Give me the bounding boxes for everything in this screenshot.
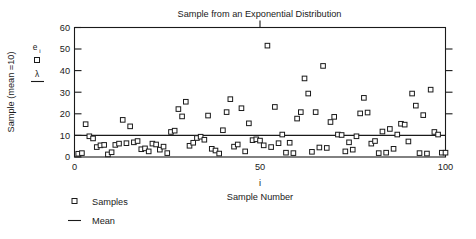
scatter-point [350, 147, 355, 152]
x-axis-symbol: i [259, 178, 261, 188]
x-tick-label: 100 [438, 162, 453, 172]
x-axis-label: Sample Number [227, 192, 293, 202]
x-tick-label: 50 [255, 162, 265, 172]
scatter-point [191, 140, 196, 145]
scatter-point [165, 151, 170, 156]
scatter-point [83, 122, 88, 127]
scatter-point [258, 138, 263, 143]
scatter-point [421, 113, 426, 118]
scatter-point [343, 149, 348, 154]
scatter-point [124, 141, 129, 146]
scatter-point [332, 115, 337, 120]
scatter-point [109, 150, 114, 155]
scatter-point [154, 142, 159, 147]
scatter-point [239, 106, 244, 111]
scatter-point [261, 143, 266, 148]
scatter-point [269, 145, 274, 150]
legend-square-marker-icon [72, 199, 77, 204]
scatter-point [284, 150, 289, 155]
scatter-point [184, 99, 189, 104]
scatter-point [310, 150, 315, 155]
scatter-point [135, 139, 140, 144]
scatter-point [217, 151, 222, 156]
legend-label-samples: Samples [92, 197, 128, 207]
scatter-point [273, 105, 278, 110]
scatter-point [317, 145, 322, 150]
scatter-point [380, 129, 385, 134]
scatter-point [388, 127, 393, 132]
annotation-e-sub-i: e i [33, 42, 41, 63]
y-tick-label: 30 [60, 88, 70, 98]
scatter-point [328, 120, 333, 125]
scatter-point [376, 151, 381, 156]
scatter-point [206, 113, 211, 118]
scatter-point [265, 43, 270, 48]
scatter-point [299, 110, 304, 115]
scatter-point [247, 121, 252, 126]
scatter-point [243, 149, 248, 154]
scatter-point [180, 114, 185, 119]
scatter-point [365, 110, 370, 115]
annotation-symbol-e: e [33, 42, 38, 52]
scatter-point [161, 144, 166, 149]
scatter-point [354, 134, 359, 139]
annotation-lambda: λ [31, 69, 44, 82]
y-tick-label: 60 [60, 23, 70, 33]
scatter-point [436, 132, 441, 137]
scatter-point [276, 141, 281, 146]
y-axis-ticks [75, 28, 82, 158]
plot-frame [75, 28, 446, 158]
scatter-point [224, 110, 229, 115]
scatter-point [414, 103, 419, 108]
scatter-point [428, 87, 433, 92]
y-tick-label: 10 [60, 131, 70, 141]
chart-title: Sample from an Exponential Distribution [178, 9, 342, 19]
legend-label-mean: Mean [92, 216, 115, 226]
scatter-point [302, 76, 307, 81]
right-axis-ticks [446, 49, 453, 114]
scatter-point [120, 118, 125, 123]
scatter-point [176, 107, 181, 112]
exponential-sample-scatter-chart: Sample from an Exponential Distribution [0, 0, 476, 239]
scatter-point [295, 116, 300, 121]
scatter-point [306, 91, 311, 96]
scatter-point [417, 151, 422, 156]
scatter-point [313, 110, 318, 115]
scatter-point [228, 97, 233, 102]
scatter-point [321, 64, 326, 69]
scatter-point [339, 133, 344, 138]
scatter-point [91, 136, 96, 141]
scatter-point [235, 142, 240, 147]
scatter-point [347, 140, 352, 145]
scatter-point [291, 151, 296, 156]
chart-legend: Samples Mean [68, 197, 128, 227]
scatter-point [358, 111, 363, 116]
scatter-point [117, 141, 122, 146]
x-tick-label: 0 [72, 162, 77, 172]
y-tick-label: 20 [60, 109, 70, 119]
y-tick-label: 50 [60, 44, 70, 54]
scatter-point [280, 132, 285, 137]
scatter-point [373, 139, 378, 144]
scatter-point [102, 143, 107, 148]
scatter-points-layer [76, 43, 448, 156]
scatter-point [324, 146, 329, 151]
scatter-point [362, 96, 367, 101]
scatter-point [443, 150, 448, 155]
scatter-point [221, 128, 226, 133]
scatter-point [287, 140, 292, 145]
annotation-square-marker-icon [35, 58, 40, 63]
scatter-point [425, 151, 430, 156]
scatter-point [410, 91, 415, 96]
x-tick-labels: 0 50 100 [72, 162, 453, 172]
scatter-point [391, 147, 396, 152]
y-tick-label: 40 [60, 66, 70, 76]
scatter-point [202, 137, 207, 142]
scatter-point [384, 150, 389, 155]
y-tick-labels: 0 10 20 30 40 50 60 [60, 23, 70, 163]
scatter-point [395, 132, 400, 137]
scatter-point [406, 139, 411, 144]
y-axis-label: Sample (mean =10) [6, 52, 16, 133]
scatter-point [402, 122, 407, 127]
scatter-point [146, 149, 151, 154]
